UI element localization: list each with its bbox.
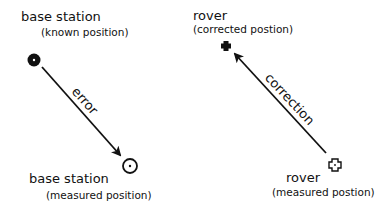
rover-corrected-icon bbox=[221, 41, 231, 51]
rover-corrected-subtitle: (corrected postion) bbox=[193, 23, 293, 35]
correction-arrow bbox=[235, 54, 326, 153]
base-station-measured-icon bbox=[123, 159, 137, 173]
base-station-known-title: base station bbox=[21, 9, 101, 24]
rover-corrected-title: rover bbox=[193, 8, 227, 23]
rover-measured-title: rover bbox=[286, 170, 320, 185]
base-station-measured-subtitle: (measured position) bbox=[46, 189, 152, 201]
error-arrow bbox=[42, 67, 120, 155]
base-station-known-icon bbox=[28, 54, 41, 67]
rover-measured-subtitle: (measured postion) bbox=[272, 186, 375, 198]
base-station-known-subtitle: (known position) bbox=[41, 26, 129, 38]
base-station-measured-title: base station bbox=[29, 171, 109, 186]
rover-measured-icon bbox=[329, 159, 341, 171]
